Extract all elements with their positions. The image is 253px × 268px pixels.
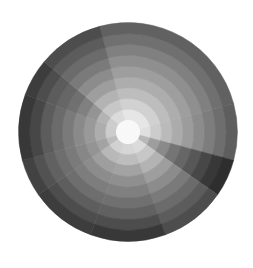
heatmap-cell-s1-r3 xyxy=(171,118,184,147)
heatmap-cell-s4-r1 xyxy=(116,153,139,166)
heatmap-cell-s1-r2 xyxy=(160,120,172,143)
center-disc xyxy=(116,120,140,144)
polar-heatmap-svg xyxy=(0,0,253,268)
polar-heatmap-chart xyxy=(0,0,253,268)
heatmap-cell-s1-r4 xyxy=(181,115,194,149)
heatmap-cell-s4-r2 xyxy=(113,164,144,177)
